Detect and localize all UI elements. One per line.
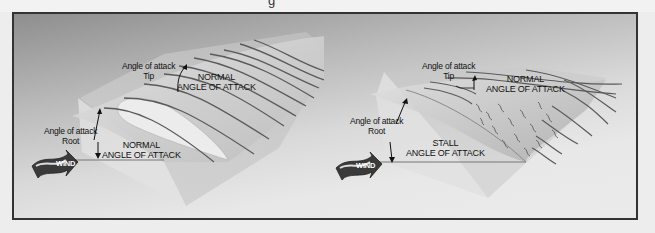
tip-angle-label-line2: Tip <box>422 71 475 81</box>
root-state-line1: STALL <box>406 138 485 148</box>
root-angle-label: Angle of attack Root <box>350 116 403 136</box>
tip-state-line1: NORMAL <box>177 72 256 82</box>
tip-state-line2: ANGLE OF ATTACK <box>486 84 565 94</box>
panel-normal-angle: Angle of attack Tip NORMAL ANGLE OF ATTA… <box>14 14 324 218</box>
tip-state-label: NORMAL ANGLE OF ATTACK <box>486 74 565 94</box>
tip-state-line2: ANGLE OF ATTACK <box>177 82 256 92</box>
root-state-line1: NORMAL <box>102 140 181 150</box>
root-state-line2: ANGLE OF ATTACK <box>406 148 485 158</box>
root-angle-label-line2: Root <box>44 136 97 146</box>
tip-state-label: NORMAL ANGLE OF ATTACK <box>177 72 256 92</box>
tip-state-line1: NORMAL <box>486 74 565 84</box>
root-state-label: STALL ANGLE OF ATTACK <box>406 138 485 158</box>
tip-angle-label-line1: Angle of attack <box>422 61 475 71</box>
wind-label: WIND <box>56 159 75 169</box>
tip-angle-label-line2: Tip <box>122 71 175 81</box>
tip-angle-label: Angle of attack Tip <box>422 61 475 81</box>
root-angle-label-line2: Root <box>350 126 403 136</box>
clipped-caption-fragment: g <box>268 0 275 8</box>
tip-angle-label: Angle of attack Tip <box>122 61 175 81</box>
root-angle-label-line1: Angle of attack <box>44 126 97 136</box>
root-angle-label-line1: Angle of attack <box>350 116 403 126</box>
tip-angle-label-line1: Angle of attack <box>122 61 175 71</box>
wind-label: WIND <box>356 161 375 171</box>
root-state-line2: ANGLE OF ATTACK <box>102 150 181 160</box>
root-angle-label: Angle of attack Root <box>44 126 97 146</box>
root-state-label: NORMAL ANGLE OF ATTACK <box>102 140 181 160</box>
top-strip: g <box>0 0 655 12</box>
wing-normal-illustration <box>14 14 324 218</box>
diagram-frame: Angle of attack Tip NORMAL ANGLE OF ATTA… <box>12 12 638 220</box>
panel-stall-angle: Angle of attack Tip NORMAL ANGLE OF ATTA… <box>326 14 636 218</box>
